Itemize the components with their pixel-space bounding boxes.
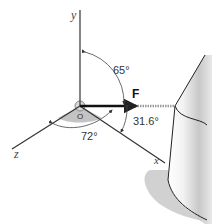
- x-axis-label: x: [153, 154, 159, 166]
- angle-label-72: 72°: [81, 130, 98, 142]
- force-diagram: y z x O F 65° 31.6° 72°: [0, 0, 217, 224]
- z-axis-label: z: [13, 147, 19, 161]
- angle-label-65: 65°: [113, 64, 130, 76]
- force-label: F: [132, 87, 139, 101]
- angle-label-31-6: 31.6°: [133, 115, 159, 127]
- y-axis-label: y: [70, 8, 77, 22]
- angle-arc-y: [85, 52, 124, 104]
- origin-label: O: [77, 112, 83, 121]
- angle-arc-x: [121, 108, 127, 132]
